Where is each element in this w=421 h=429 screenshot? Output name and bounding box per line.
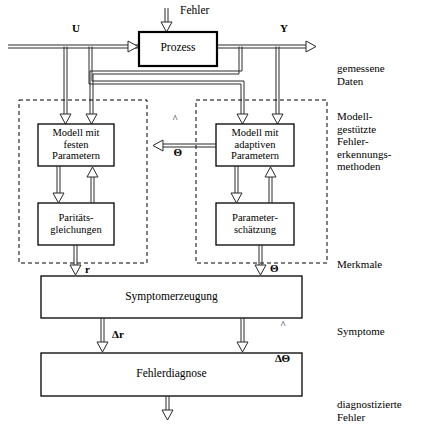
theta-hat-arrowhead [153,140,163,151]
modelladaptiv-to-schaetzung-line [235,166,238,194]
label-y: Y [280,22,288,34]
theta-hat-glyph: Θ [174,146,183,158]
delta-theta-circumflex: ^ [276,321,290,329]
label-delta-theta-hat: ^ ΔΘ [270,328,290,364]
label-fehler-input: Fehler [180,4,209,16]
modell-fest-label: Modell mit festen Parametern [38,127,114,162]
modell-adaptiv-label: Modell mit adaptiven Parametern [216,127,294,162]
side-label-diagnostizierte-fehler: diagnostizierte Fehler [337,398,402,423]
schaetzung-to-modelladaptiv-line [269,176,272,203]
side-label-merkmale: Merkmale [337,258,382,271]
delta-r-arrowhead [97,342,108,352]
modellfest-to-paritaet-line [57,166,60,194]
fehler-arrowhead [161,22,172,32]
y-right-group-arrowhead [272,114,283,124]
label-residual-r: r [85,263,90,275]
theta-arrowhead [255,265,266,275]
paritaet-to-modellfest-line [91,176,94,203]
u-left-arrowhead [60,114,71,124]
y-branch-to-right-group [276,47,279,116]
y-output-line [217,45,310,48]
fehler-input-line [165,8,168,23]
fehlerdiagnose-label: Fehlerdiagnose [41,368,302,380]
delta-r-line [101,318,104,343]
y-arrowhead [306,41,316,52]
schaetzung-to-modelladaptiv-arrowhead [265,167,276,177]
label-u: U [72,22,80,34]
diagnosed-faults-line [166,396,169,411]
parameterschaetzung-label: Parameter- schätzung [216,212,294,235]
theta-hat-circumflex: ^ [168,115,182,123]
label-delta-r: Δr [112,328,124,340]
y-left-group-arrowhead [86,114,97,124]
paritaetsgleichungen-label: Paritäts- gleichungen [38,212,114,235]
label-theta: Θ [270,262,279,274]
symptomerzeugung-label: Symptomerzeugung [41,291,302,303]
delta-theta-arrowhead [237,342,248,352]
modelladaptiv-to-schaetzung-arrowhead [231,193,242,203]
residual-r-line [74,245,77,266]
paritaet-to-modellfest-arrowhead [87,167,98,177]
diagnosed-faults-arrowhead [162,410,173,420]
label-theta-hat: ^ Θ [168,122,182,158]
modellfest-to-paritaet-arrowhead [53,193,64,203]
side-label-methoden: Modell- gestützte Fehler- erkennungs- me… [337,110,391,173]
prozess-label: Prozess [139,42,217,54]
side-label-symptome: Symptome [337,325,385,338]
residual-r-arrowhead [70,265,81,275]
u-right-arrowhead [237,114,248,124]
delta-theta-line [241,318,244,343]
u-to-prozess-arrowhead [128,41,138,52]
side-label-gemessene-daten: gemessene Daten [337,62,385,87]
u-branch-left [64,47,67,116]
delta-theta-glyph: ΔΘ [275,352,290,364]
